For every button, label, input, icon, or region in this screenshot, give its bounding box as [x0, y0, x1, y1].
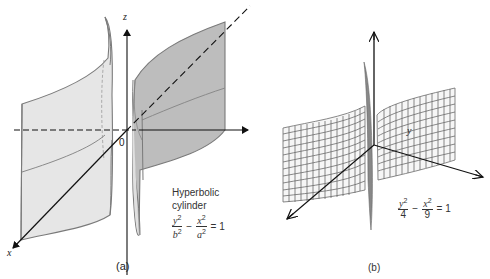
x-axis-label: x: [7, 247, 11, 258]
mesh-hyperbolic-cylinder: [283, 32, 483, 230]
fraction-x-over-a: x2 a2: [196, 213, 206, 241]
caption-b: (b): [368, 262, 380, 273]
fraction-y-over-b: y2 b2: [172, 213, 182, 241]
exponent: 2: [428, 197, 432, 204]
denominator: 4: [400, 210, 406, 220]
exponent: 2: [202, 228, 206, 235]
equation-b: y2 4 − x2 9 = 1: [398, 196, 451, 220]
equals-one: = 1: [437, 203, 451, 214]
title-line-2: cylinder: [172, 199, 219, 212]
exponent: 2: [202, 214, 206, 221]
z-axis-label: z: [123, 11, 127, 22]
figure-canvas: [0, 0, 490, 279]
equals-one: = 1: [211, 221, 225, 232]
exponent: 2: [178, 228, 182, 235]
exponent: 2: [177, 214, 181, 221]
minus-sign: −: [412, 203, 418, 214]
fraction-x-over-9: x2 9: [422, 196, 432, 220]
figure-a-title: Hyperbolic cylinder: [172, 186, 219, 212]
denominator: 9: [425, 210, 431, 220]
y-axis-label: y: [407, 125, 411, 136]
left-sheet: [21, 17, 112, 240]
equation-a: y2 b2 − x2 a2 = 1: [172, 213, 225, 241]
fraction-y-over-4: y2 4: [398, 196, 408, 220]
exponent: 2: [403, 197, 407, 204]
caption-a: (a): [116, 260, 129, 272]
right-mesh: [377, 88, 455, 180]
title-line-1: Hyperbolic: [172, 186, 219, 199]
minus-sign: −: [186, 221, 192, 232]
origin-label: 0: [119, 137, 125, 148]
